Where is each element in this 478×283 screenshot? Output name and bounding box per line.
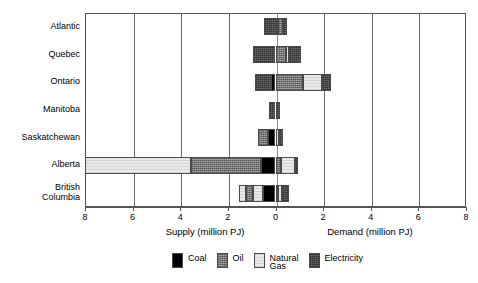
x-tick	[418, 207, 419, 211]
x-tick-label: 8	[75, 212, 95, 222]
legend-item-gas[interactable]: NaturalGas	[254, 253, 299, 270]
legend-swatch-gas	[254, 253, 265, 268]
bar-segment-supply-electricity	[269, 102, 276, 119]
x-tick	[85, 207, 86, 211]
bar-segment-supply-oil	[246, 185, 253, 202]
bar-segment-supply-natural-gas	[253, 185, 263, 202]
bar-row	[0, 185, 478, 202]
bar-segment-demand-electricity	[289, 46, 301, 63]
x-tick	[276, 207, 277, 211]
x-tick	[371, 207, 372, 211]
x-tick-label: 2	[313, 212, 333, 222]
bar-segment-supply-coal	[268, 129, 275, 146]
bar-row	[0, 74, 478, 91]
legend-item-coal[interactable]: Coal	[172, 253, 207, 268]
bar-segment-demand-natural-gas	[303, 74, 322, 91]
bar-segment-demand-oil	[276, 46, 286, 63]
x-tick-label: 4	[361, 212, 381, 222]
legend-swatch-coal	[172, 253, 183, 268]
legend-item-oil[interactable]: Oil	[217, 253, 244, 268]
bar-segment-demand-natural-gas	[281, 157, 294, 174]
bar-row	[0, 102, 478, 119]
bar-segment-demand-electricity	[276, 102, 281, 119]
bar-segment-supply-electricity	[264, 18, 276, 35]
x-tick	[466, 207, 467, 211]
energy-supply-demand-chart: AtlanticQuebecOntarioManitobaSaskatchewa…	[0, 0, 478, 283]
legend-label-oil: Oil	[233, 253, 244, 262]
bar-segment-demand-oil	[276, 74, 303, 91]
x-tick-label: 8	[456, 212, 476, 222]
x-tick-label: 2	[218, 212, 238, 222]
bar-segment-supply-oil	[191, 157, 261, 174]
bar-row	[0, 18, 478, 35]
legend-swatch-oil	[217, 253, 228, 268]
supply-axis-title: Supply (million PJ)	[120, 226, 290, 237]
bar-segment-supply-oil	[258, 129, 268, 146]
bar-segment-supply-natural-gas	[85, 157, 191, 174]
bar-segment-supply-coal	[263, 185, 275, 202]
bar-row	[0, 46, 478, 63]
bar-segment-demand-electricity	[322, 74, 332, 91]
demand-axis-title: Demand (million PJ)	[275, 226, 465, 237]
bar-segment-demand-electricity	[279, 129, 283, 146]
chart-legend: CoalOilNaturalGasElectricity	[172, 253, 363, 270]
legend-swatch-elec	[309, 253, 320, 268]
x-tick-label: 0	[266, 212, 286, 222]
bar-segment-demand-electricity	[282, 185, 288, 202]
bar-segment-supply-coal	[261, 157, 275, 174]
bar-segment-supply-electricity	[253, 46, 276, 63]
x-tick-label: 6	[123, 212, 143, 222]
bar-row	[0, 129, 478, 146]
legend-item-elec[interactable]: Electricity	[309, 253, 364, 268]
bar-segment-demand-electricity	[295, 157, 299, 174]
x-tick-label: 4	[170, 212, 190, 222]
legend-label-coal: Coal	[188, 253, 207, 262]
x-tick-label: 6	[408, 212, 428, 222]
x-tick	[133, 207, 134, 211]
x-tick	[180, 207, 181, 211]
legend-label-gas: NaturalGas	[270, 253, 299, 270]
x-tick	[323, 207, 324, 211]
legend-label-elec: Electricity	[325, 253, 364, 262]
x-tick	[228, 207, 229, 211]
bar-segment-demand-electricity	[283, 18, 287, 35]
bar-row	[0, 157, 478, 174]
bar-segment-supply-electricity	[255, 74, 271, 91]
